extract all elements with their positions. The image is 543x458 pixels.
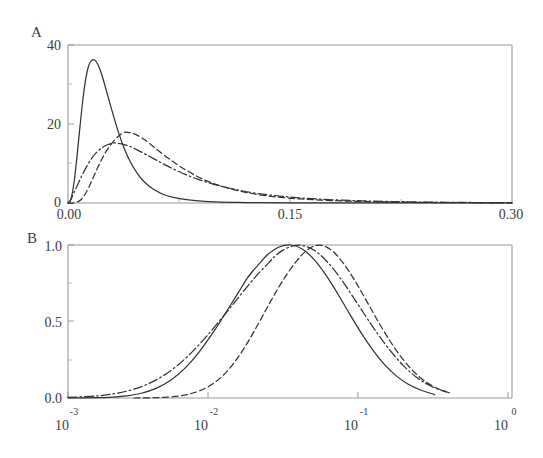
panel-b-curves (68, 245, 449, 398)
panel-a-curve-solid (68, 60, 512, 203)
panel-b-xtick-1e-3-mantissa: 10 (55, 418, 69, 433)
panel-a-curve-dashdot (68, 143, 512, 203)
panel-a-ytick-20: 20 (47, 117, 61, 132)
panel-b: B 1.0 0.5 0.0 10 -3 10 -2 10 -1 10 0 (27, 230, 517, 433)
panel-b-letter: B (27, 230, 37, 246)
panel-b-ytick-05: 0.5 (45, 315, 63, 330)
panel-a-xtick-030: 0.30 (499, 207, 524, 222)
panel-b-xtick-1e-3-exponent: -3 (70, 406, 78, 417)
panel-b-curve-solid (68, 245, 435, 398)
panel-b-xtick-1e-2: 10 -2 (194, 406, 218, 433)
panel-a-letter: A (31, 24, 42, 40)
panel-b-xtick-1e-1-exponent: -1 (360, 406, 368, 417)
panel-b-xtick-1e0-exponent: 0 (512, 406, 517, 417)
panel-b-xtick-1e-1: 10 -1 (344, 406, 368, 433)
panel-b-xtick-1e0: 10 0 (494, 406, 517, 433)
panel-b-xtick-1e-2-mantissa: 10 (194, 418, 208, 433)
panel-a: A 40 20 0 0.00 0.15 0.30 (31, 24, 523, 222)
panel-b-curve-dashdot (68, 245, 446, 397)
panel-b-xtick-1e0-mantissa: 10 (494, 418, 508, 433)
figure-canvas: A 40 20 0 0.00 0.15 0.30 B 1.0 (0, 0, 543, 458)
panel-b-ytick-00: 0.0 (45, 391, 63, 406)
panel-a-xtick-015: 0.15 (278, 207, 303, 222)
panel-b-xtick-1e-1-mantissa: 10 (344, 418, 358, 433)
panel-b-ytick-10: 1.0 (45, 239, 63, 254)
panel-a-curves (68, 60, 512, 203)
panel-a-ytick-40: 40 (47, 38, 61, 53)
panel-a-curve-dashed (68, 132, 512, 203)
panel-b-curve-dashed (134, 245, 449, 398)
panel-b-xtick-1e-2-exponent: -2 (210, 406, 218, 417)
panel-b-xtick-1e-3: 10 -3 (55, 406, 78, 433)
panel-a-xtick-000: 0.00 (57, 207, 82, 222)
